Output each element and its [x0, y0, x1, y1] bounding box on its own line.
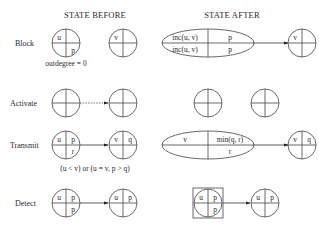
header-state-before: STATE BEFORE [64, 10, 126, 20]
cell-tl: u [199, 193, 203, 202]
cell-tl: u [114, 193, 118, 202]
cell-tr: p [228, 33, 232, 42]
merged-ellipse-block: inc(u, v) inc(u, v) p p [162, 29, 254, 57]
cell-tr: p [128, 193, 132, 202]
row-label-activate: Activate [10, 99, 38, 108]
state-transition-diagram: STATE BEFORE STATE AFTER Block u p outde… [0, 0, 319, 231]
node-u2-after: u p [251, 189, 279, 217]
node-v-before: v [109, 29, 137, 57]
node-before-2 [109, 89, 137, 117]
row-detect: Detect u p p u p u p p [15, 188, 279, 218]
cell-tr: p [71, 193, 75, 202]
node-v-before: v q [109, 131, 137, 159]
cell-tl: v [183, 135, 187, 144]
cell-tl: u [57, 193, 61, 202]
row-block: Block u p outdegree = 0 v inc(u, v) inc(… [15, 29, 316, 68]
node-u-after-boxed: u p p [193, 188, 223, 218]
node-after-1 [194, 89, 222, 117]
row-label-detect: Detect [15, 199, 37, 208]
cell-br: p [71, 205, 75, 214]
row-label-transmit: Transmit [10, 141, 39, 150]
cell-tl: u [57, 135, 61, 144]
cell-br: r [229, 147, 232, 156]
cell-tl: v [293, 33, 297, 42]
node-v-after: v q [288, 131, 316, 159]
merged-ellipse-transmit: v min(q, r) r [162, 131, 254, 159]
cell-tl: u [256, 193, 260, 202]
cell-tr: min(q, r) [217, 135, 244, 144]
row-transmit: Transmit u p r v q (u < v) or (u = v, p … [10, 131, 316, 173]
cell-tr: p [213, 193, 217, 202]
cell-br: r [72, 147, 75, 156]
cell-tr: q [128, 135, 132, 144]
cell-tl: inc(u, v) [172, 33, 198, 42]
cell-bl: inc(u, v) [172, 45, 198, 54]
node-u-before: u p r [52, 131, 80, 159]
cell-tl: v [114, 135, 118, 144]
node-u-before: u p p [52, 189, 80, 217]
row-label-block: Block [15, 39, 34, 48]
cell-tl: v [114, 33, 118, 42]
node-after-2 [251, 89, 279, 117]
cell-tr: p [71, 135, 75, 144]
cell-tr: q [307, 135, 311, 144]
row-activate: Activate [10, 89, 279, 117]
cell-tr: p [270, 193, 274, 202]
node-u2-before: u p [109, 189, 137, 217]
cell-tl: u [57, 33, 61, 42]
note-outdegree: outdegree = 0 [45, 59, 87, 68]
cell-br: p [228, 45, 232, 54]
cell-tl: v [293, 135, 297, 144]
header-state-after: STATE AFTER [204, 10, 260, 20]
cell-br: p [71, 46, 75, 55]
node-v-after: v [288, 29, 316, 57]
cell-br: p [213, 205, 217, 214]
node-before-1 [52, 89, 80, 117]
node-u-before: u p [52, 29, 80, 57]
note-transmit-condition: (u < v) or (u = v, p > q) [60, 164, 130, 173]
